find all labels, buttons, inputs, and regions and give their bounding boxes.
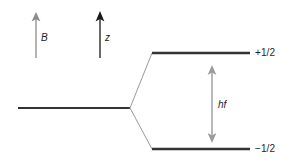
- diagram-canvas: [0, 0, 293, 167]
- magnetic-field-arrow: [32, 12, 41, 58]
- split-line-lower: [130, 108, 152, 149]
- transition-energy-label: hf: [218, 100, 226, 110]
- z-axis-arrow: [96, 11, 105, 58]
- zeeman-splitting-figure: B z hf +1/2 −1/2: [0, 0, 293, 167]
- z-axis-label: z: [105, 33, 110, 43]
- split-line-upper: [130, 53, 152, 108]
- lower-level-label: −1/2: [255, 144, 275, 154]
- transition-arrow: [208, 65, 217, 143]
- magnetic-field-label: B: [41, 33, 48, 43]
- upper-level-label: +1/2: [255, 48, 275, 58]
